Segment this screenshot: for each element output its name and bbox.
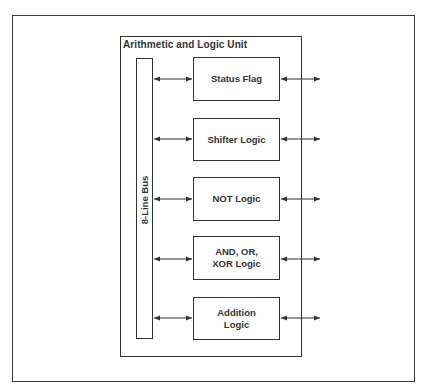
connection-arrows	[0, 0, 426, 391]
